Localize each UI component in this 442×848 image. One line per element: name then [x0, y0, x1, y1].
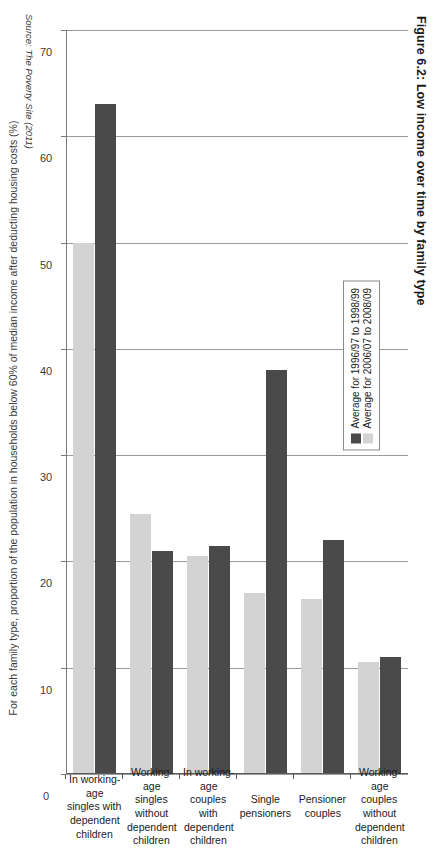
- bar-series-1: [210, 546, 231, 775]
- legend-label: Average for 2006/07 to 2008/09: [362, 288, 373, 428]
- category-label-text: In working-age singles with dependent ch…: [66, 773, 123, 841]
- legend-swatch: [363, 433, 373, 443]
- value-axis-tick-labels: 706050403020100: [22, 46, 56, 790]
- legend-label: Average for 1996/97 to 1998/99: [350, 288, 361, 428]
- bar-series-2: [131, 514, 152, 774]
- value-axis-tick-label: 60: [40, 152, 52, 164]
- bar-series-2: [188, 556, 209, 774]
- bar-group: [66, 30, 123, 774]
- value-axis-line: [66, 30, 67, 774]
- value-axis-tick-label: 50: [40, 259, 52, 271]
- value-axis-tick-label: 30: [40, 471, 52, 483]
- category-label: In working-age singles with dependent ch…: [66, 790, 123, 824]
- legend-item: Average for 1996/97 to 1998/99: [350, 288, 361, 443]
- bar-series-1: [324, 540, 345, 774]
- bar-series-1: [153, 551, 174, 774]
- value-axis-tick-label: 40: [40, 365, 52, 377]
- value-axis-tick-label: 10: [40, 684, 52, 696]
- category-label-text: Working-age singles without dependent ch…: [123, 766, 180, 848]
- value-axis-tick-label: 70: [40, 46, 52, 58]
- bar-series-2: [359, 662, 380, 774]
- bar-series-1: [96, 104, 117, 774]
- bar-series-2: [302, 599, 323, 774]
- category-label: In working-age couples with dependent ch…: [180, 790, 237, 824]
- category-axis-labels: Working-age couples without dependent ch…: [66, 790, 408, 824]
- bar-series-1: [267, 370, 288, 774]
- category-label: Pensioner couples: [294, 790, 351, 824]
- value-axis-tick-label: 20: [40, 577, 52, 589]
- legend-swatch: [351, 433, 361, 443]
- category-tick: [65, 774, 66, 779]
- value-axis-tick-label: 0: [43, 790, 49, 802]
- value-axis-title: For each family type, proportion of the …: [6, 46, 20, 790]
- category-label: Single pensioners: [237, 790, 294, 824]
- figure-title: Figure 6.2: Low income over time by fami…: [414, 16, 428, 781]
- category-tick: [350, 774, 351, 779]
- bar-series-2: [74, 243, 95, 774]
- bar-series-1: [381, 657, 402, 774]
- category-tick: [179, 774, 180, 779]
- category-label: Working-age singles without dependent ch…: [123, 790, 180, 824]
- bar-group: [123, 30, 180, 774]
- category-tick: [122, 774, 123, 779]
- legend: Average for 1996/97 to 1998/99Average fo…: [343, 280, 380, 450]
- category-label-text: Working-age couples without dependent ch…: [351, 766, 408, 848]
- category-tick: [236, 774, 237, 779]
- category-label-text: Single pensioners: [240, 793, 291, 820]
- bar-series-2: [245, 593, 266, 774]
- plot-area: Average for 1996/97 to 1998/99Average fo…: [66, 30, 408, 774]
- legend-item: Average for 2006/07 to 2008/09: [362, 288, 373, 443]
- category-label: Working-age couples without dependent ch…: [351, 790, 408, 824]
- bar-group: [180, 30, 237, 774]
- category-tick: [293, 774, 294, 779]
- bar-group: [237, 30, 294, 774]
- category-label-text: In working-age couples with dependent ch…: [180, 766, 237, 848]
- category-label-text: Pensioner couples: [299, 793, 346, 820]
- source-note: Source: The Poverty Site (2011): [24, 14, 35, 149]
